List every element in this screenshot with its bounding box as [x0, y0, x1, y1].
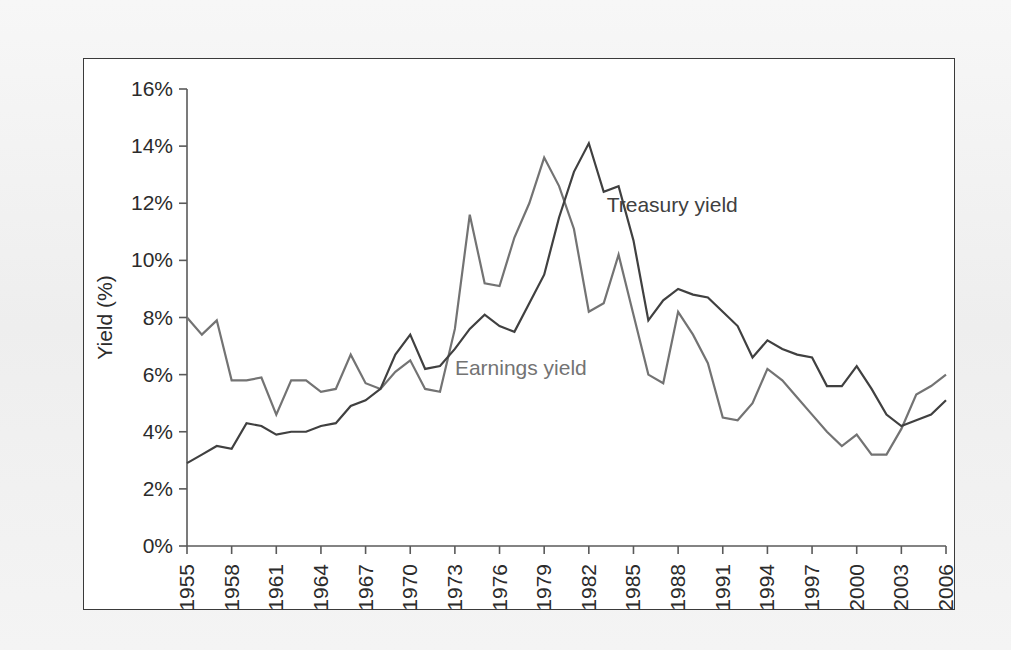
yield-line-chart: 0%2%4%6%8%10%12%14%16% 19551958196119641… [84, 59, 956, 611]
y-axis-tick-group: 0%2%4%6%8%10%12%14%16% [131, 77, 187, 557]
y-axis-tick-label: 14% [131, 134, 173, 157]
y-axis-title: Yield (%) [93, 275, 116, 359]
y-axis-tick-label: 16% [131, 77, 173, 100]
x-axis-tick-label: 1976 [488, 564, 511, 611]
x-axis-tick-label: 1967 [354, 564, 377, 611]
x-axis-tick-label: 1970 [398, 564, 421, 611]
y-axis-tick-label: 8% [143, 306, 173, 329]
x-axis-tick-label: 1973 [443, 564, 466, 611]
y-axis-tick-label: 6% [143, 363, 173, 386]
chart-figure-frame: 0%2%4%6%8%10%12%14%16% 19551958196119641… [83, 58, 955, 610]
y-axis-tick-label: 12% [131, 191, 173, 214]
x-axis-tick-label: 1994 [755, 564, 778, 611]
x-axis-tick-label: 1997 [800, 564, 823, 611]
x-axis-tick-label: 1961 [264, 564, 287, 611]
x-axis-tick-group: 1955195819611964196719701973197619791982… [175, 546, 956, 611]
series-group [187, 143, 946, 463]
x-axis-tick-label: 2003 [889, 564, 912, 611]
y-axis-tick-label: 4% [143, 420, 173, 443]
x-axis-tick-label: 1991 [711, 564, 734, 611]
x-axis-tick-label: 1985 [621, 564, 644, 611]
x-axis-tick-label: 1982 [577, 564, 600, 611]
series-line-earnings-yield [187, 158, 946, 455]
series-annotation-earnings-yield: Earnings yield [455, 356, 587, 379]
page-background: 0%2%4%6%8%10%12%14%16% 19551958196119641… [0, 0, 1011, 650]
y-axis-tick-label: 10% [131, 248, 173, 271]
x-axis-tick-label: 1964 [309, 564, 332, 611]
y-axis-tick-label: 2% [143, 477, 173, 500]
x-axis-tick-label: 1988 [666, 564, 689, 611]
x-axis-tick-label: 1979 [532, 564, 555, 611]
series-line-treasury-yield [187, 143, 946, 463]
series-annotation-treasury-yield: Treasury yield [607, 193, 738, 216]
x-axis-tick-label: 2006 [934, 564, 956, 611]
y-axis-tick-label: 0% [143, 534, 173, 557]
x-axis-tick-label: 2000 [845, 564, 868, 611]
x-axis-tick-label: 1955 [175, 564, 198, 611]
x-axis-tick-label: 1958 [220, 564, 243, 611]
